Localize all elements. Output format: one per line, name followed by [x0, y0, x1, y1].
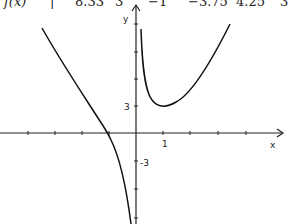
y-tick-label: 3	[124, 102, 130, 112]
function-graph: 1 x 3 -3 y	[0, 0, 300, 224]
right-branch-curve	[141, 24, 230, 106]
y-tick-label: -3	[140, 158, 149, 168]
x-axis: 1 x	[0, 129, 283, 150]
left-branch-curve	[42, 28, 131, 224]
x-axis-label: x	[270, 140, 276, 150]
y-axis: 3 -3 y	[123, 5, 149, 224]
y-axis-label: y	[123, 14, 129, 24]
x-tick-label: 1	[162, 139, 168, 149]
